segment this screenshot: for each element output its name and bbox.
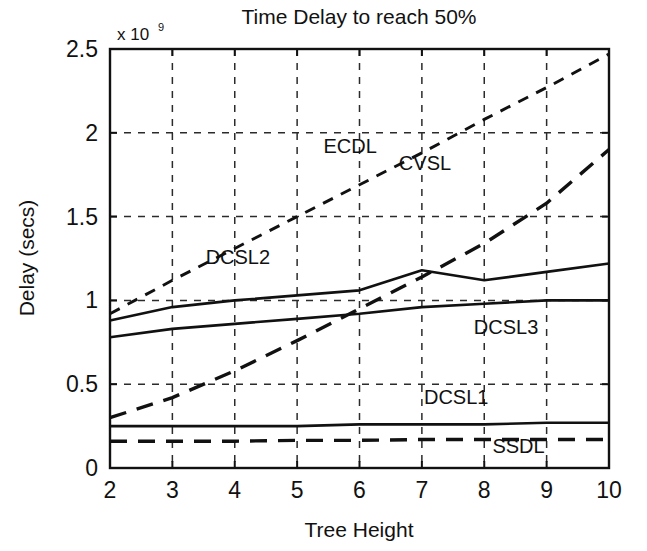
y-tick-label: 1.5 (66, 204, 98, 230)
chart-title: Time Delay to reach 50% (242, 5, 477, 28)
chart-figure: Time Delay to reach 50% x 10 9 Delay (se… (0, 0, 647, 551)
y-tick-label: 0.5 (66, 371, 98, 397)
series-label-ecdl: ECDL (323, 135, 376, 157)
x-tick-label: 5 (291, 477, 304, 503)
x-tick-label: 4 (228, 477, 241, 503)
chart-svg: Time Delay to reach 50% x 10 9 Delay (se… (0, 0, 647, 551)
series-label-cvsl: CVSL (399, 152, 451, 174)
x-tick-label: 3 (166, 477, 179, 503)
x-axis-label: Tree Height (305, 518, 414, 541)
y-tick-label: 0 (85, 455, 98, 481)
y-tick-label: 2.5 (66, 36, 98, 62)
y-tick-label: 1 (85, 287, 98, 313)
series-label-dcsl1: DCSL1 (424, 386, 488, 408)
x-tick-label: 6 (353, 477, 366, 503)
x-tick-label: 2 (104, 477, 117, 503)
series-label-ssdl: SSDL (492, 435, 544, 457)
x-tick-label: 7 (415, 477, 428, 503)
series-label-dcsl3: DCSL3 (474, 316, 538, 338)
y-tick-label: 2 (85, 120, 98, 146)
y-axis-label: Delay (secs) (15, 200, 38, 317)
x-tick-label: 9 (540, 477, 553, 503)
x-tick-label: 8 (478, 477, 491, 503)
x-tick-label: 10 (596, 477, 622, 503)
y-axis-multiplier-exponent: 9 (158, 21, 164, 33)
y-axis-multiplier: x 10 (117, 25, 149, 44)
series-label-dcsl2: DCSL2 (206, 246, 270, 268)
